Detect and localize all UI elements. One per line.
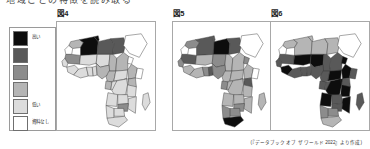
- legend-swatch-level-5: [13, 99, 28, 114]
- panel-title-figure-4: 図4: [57, 9, 69, 18]
- panel-title-figure-6: 図6: [271, 9, 283, 18]
- legend-swatch-level-2: [13, 48, 28, 63]
- africa-choropleth-map-5: [173, 22, 271, 130]
- panel-title-figure-5: 図5: [173, 9, 185, 18]
- map-panel-figure-6: [270, 21, 370, 131]
- legend-swatch-level-1: [13, 31, 28, 46]
- legend-panel: 高い 低い 資料なし: [9, 27, 56, 131]
- source-citation: (『データブック オブ ザ ワールド 2022』より作成): [251, 140, 362, 146]
- legend-label-high: 高い: [32, 34, 40, 39]
- africa-choropleth-map-4: [57, 22, 155, 130]
- legend-swatch-no-data: [13, 116, 28, 131]
- legend-swatch-level-3: [13, 65, 28, 80]
- legend-item-0: 高い: [13, 31, 55, 47]
- map-panel-figure-5: [172, 21, 272, 131]
- map-panel-figure-4: [56, 21, 156, 131]
- legend-swatch-level-4: [13, 82, 28, 97]
- legend-item-5: 資料なし: [13, 116, 55, 132]
- legend-item-4: 低い: [13, 99, 55, 115]
- clipped-header-strip: 地域ごとの特徴を読み取る: [0, 0, 368, 9]
- legend-item-1: [13, 48, 55, 64]
- legend-label-low: 低い: [32, 102, 40, 107]
- africa-choropleth-map-6: [271, 22, 369, 130]
- legend-label-no-data: 資料なし: [32, 119, 49, 124]
- clipped-header-text: 地域ごとの特徴を読み取る: [6, 0, 132, 6]
- legend-item-2: [13, 65, 55, 81]
- legend-item-3: [13, 82, 55, 98]
